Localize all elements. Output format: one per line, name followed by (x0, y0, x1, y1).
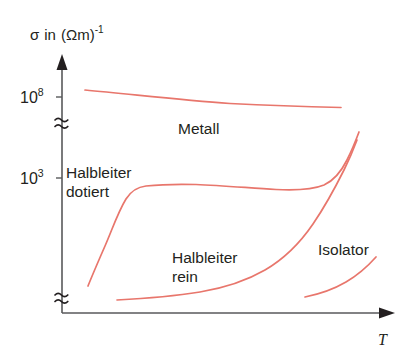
x-axis-title: T (378, 331, 388, 348)
label-halbleiter-dotiert-line1: Halbleiter (66, 164, 131, 181)
label-metall: Metall (178, 120, 219, 137)
label-halbleiter-dotiert: Halbleiter dotiert (66, 164, 131, 200)
label-halbleiter-rein-line2: rein (172, 268, 198, 285)
curve-halbleiter-rein (117, 140, 357, 300)
y-tick-label-lower-exponent: 3 (38, 167, 44, 179)
y-axis-title: σin(Ωm)-1 (30, 24, 104, 43)
y-axis-title-sigma: σ (30, 26, 40, 43)
curves-group (85, 90, 376, 300)
label-isolator: Isolator (318, 241, 369, 258)
conductivity-temperature-chart: 108 103 σin(Ωm)-1 T Metall Halbleiter do… (0, 0, 413, 363)
curve-isolator (305, 257, 376, 297)
label-halbleiter-rein-line1: Halbleiter (172, 249, 237, 266)
y-tick-label-upper: 108 (20, 86, 44, 106)
y-tick-label-upper-base: 10 (20, 89, 38, 106)
y-axis-arrow-icon (57, 54, 68, 70)
label-halbleiter-rein: Halbleiter rein (172, 249, 237, 285)
label-halbleiter-dotiert-line2: dotiert (66, 183, 110, 200)
y-axis-title-unit: (Ωm) (61, 26, 95, 43)
figure-root: 108 103 σin(Ωm)-1 T Metall Halbleiter do… (0, 0, 413, 363)
y-tick-label-lower: 103 (20, 167, 44, 187)
y-tick-label-lower-base: 10 (20, 170, 38, 187)
x-axis-arrow-icon (379, 308, 395, 319)
curve-metall (85, 90, 341, 108)
y-tick-label-upper-exponent: 8 (38, 86, 44, 98)
y-axis-title-in: in (44, 26, 56, 43)
y-axis-title-exponent: -1 (95, 24, 104, 35)
